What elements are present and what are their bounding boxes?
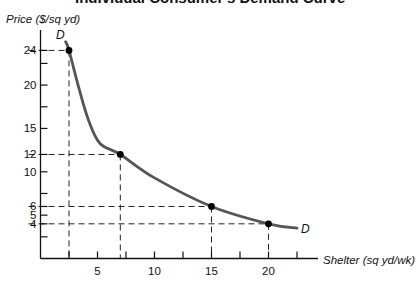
curve-label-end: D bbox=[301, 222, 310, 236]
chart-title: Individual Consumer's Demand Curve bbox=[75, 0, 345, 6]
y-tick-label: 20 bbox=[24, 79, 37, 91]
data-point bbox=[265, 220, 272, 227]
y-tick-label: 12 bbox=[24, 148, 37, 160]
x-tick-label: 15 bbox=[205, 265, 218, 277]
y-tick-label: 15 bbox=[24, 122, 37, 134]
y-axis-label: Price ($/sq yd) bbox=[6, 13, 80, 25]
axis-ticks: 51015204561012152024 bbox=[24, 44, 297, 276]
data-point bbox=[117, 151, 124, 158]
demand-curve-chart: Individual Consumer's Demand Curve Price… bbox=[0, 0, 416, 286]
y-tick-label: 24 bbox=[24, 44, 37, 56]
x-axis-label: Shelter (sq yd/wk) bbox=[323, 254, 415, 266]
x-tick-label: 10 bbox=[148, 265, 161, 277]
data-point bbox=[208, 203, 215, 210]
curve-label-start: D bbox=[56, 28, 65, 42]
y-tick-label: 10 bbox=[24, 166, 37, 178]
data-point bbox=[66, 47, 73, 54]
demand-curve-line bbox=[66, 42, 297, 228]
x-tick-label: 5 bbox=[94, 265, 100, 277]
y-tick-label: 6 bbox=[30, 200, 36, 212]
dashed-guides bbox=[29, 50, 269, 258]
demand-curve bbox=[66, 42, 297, 228]
x-tick-label: 20 bbox=[262, 265, 275, 277]
